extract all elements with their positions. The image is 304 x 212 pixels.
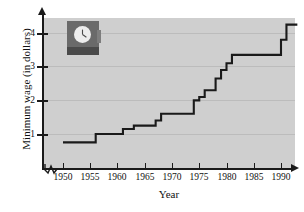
x-axis-arrow: [291, 164, 299, 172]
x-tick-1985: [254, 163, 255, 170]
x-tick-1960: [117, 163, 118, 170]
x-tick-label-1960: 1960: [102, 172, 132, 183]
minimum-wage-step-chart: 4 3 2 1 1950 1955 1960 1965 1970 1975 19…: [0, 0, 304, 212]
x-tick-label-1980: 1980: [212, 172, 242, 183]
x-tick-1990: [281, 163, 282, 170]
y-axis-arrow: [38, 7, 46, 15]
x-tick-1970: [172, 163, 173, 170]
clock-base: [67, 47, 99, 55]
x-axis-title: Year: [43, 188, 295, 200]
x-tick-label-1955: 1955: [75, 172, 105, 183]
x-tick-1980: [227, 163, 228, 170]
x-tick-label-1950: 1950: [48, 172, 78, 183]
x-tick-1965: [145, 163, 146, 170]
x-tick-1975: [199, 163, 200, 170]
x-tick-label-1965: 1965: [130, 172, 160, 183]
x-tick-1950: [63, 163, 64, 170]
y-tick-1: [37, 134, 48, 136]
y-tick-3: [37, 66, 48, 68]
x-tick-label-1985: 1985: [239, 172, 269, 183]
clock-hands-icon: [74, 26, 91, 43]
x-tick-label-1975: 1975: [184, 172, 214, 183]
gridline-3: [43, 66, 295, 67]
y-axis-title: Minimum wage (in dollars): [20, 9, 32, 169]
y-tick-2: [37, 100, 48, 102]
time-clock-photo: [67, 21, 99, 55]
x-tick-label-1970: 1970: [157, 172, 187, 183]
y-axis-line: [42, 12, 44, 170]
gridline-2: [43, 100, 295, 101]
clock-side-tab: [97, 30, 101, 43]
gridline-1: [43, 134, 295, 135]
x-tick-label-1990: 1990: [266, 172, 296, 183]
y-tick-4: [37, 33, 48, 35]
x-tick-1955: [90, 163, 91, 170]
